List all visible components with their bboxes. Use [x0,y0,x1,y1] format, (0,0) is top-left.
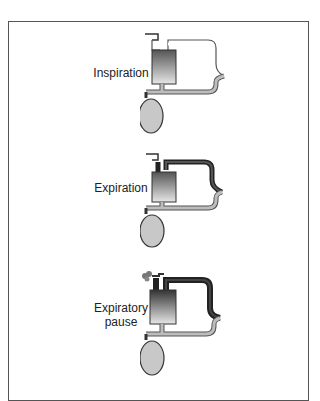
ventilator-inspiration-diagram-icon [140,30,240,135]
ventilator-expiratory-pause-diagram-icon [140,268,240,378]
cut-off-header-text [24,0,289,6]
ventilator-expiration-diagram-icon [140,150,240,255]
